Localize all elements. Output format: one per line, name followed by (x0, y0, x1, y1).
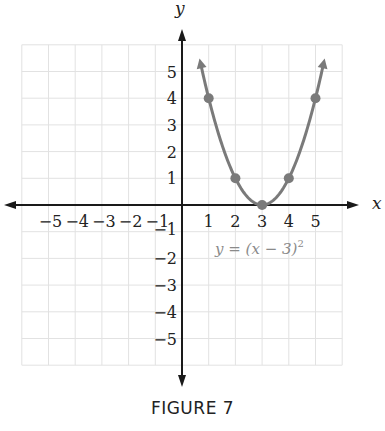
x-axis-right-arrow (347, 201, 359, 209)
equation-main: y = (x − 3) (214, 240, 298, 258)
y-tick-label: 5 (167, 63, 177, 82)
figure-caption: FIGURE 7 (0, 398, 385, 418)
x-tick-label: −3 (92, 212, 116, 231)
data-point (230, 173, 240, 183)
data-point (257, 200, 267, 210)
x-tick-label: 1 (204, 212, 214, 231)
y-axis-up-arrow (178, 29, 186, 41)
curve-arrow (318, 58, 328, 69)
x-tick-label: 4 (284, 212, 294, 231)
y-tick-label: −3 (153, 276, 177, 295)
curve-arrow (197, 58, 207, 69)
x-tick-label: 3 (257, 212, 267, 231)
data-point (204, 93, 214, 103)
y-axis-down-arrow (178, 375, 186, 387)
y-tick-label: 1 (167, 169, 177, 188)
data-point (284, 173, 294, 183)
chart-canvas: −5−4−3−2−112345−5−4−3−2−112345 x y y = (… (0, 0, 385, 431)
y-tick-label: −5 (153, 330, 177, 349)
y-tick-label: −2 (153, 249, 177, 268)
x-tick-label: −5 (39, 212, 63, 231)
y-axis-label: y (174, 0, 185, 18)
y-tick-label: 2 (167, 143, 177, 162)
data-point (311, 93, 321, 103)
axes (4, 29, 359, 387)
x-axis-left-arrow (4, 201, 16, 209)
equation-exponent: 2 (297, 238, 303, 249)
y-tick-label: −4 (153, 303, 177, 322)
x-tick-label: −4 (65, 212, 89, 231)
y-tick-label: 3 (167, 116, 177, 135)
x-tick-label: 2 (230, 212, 240, 231)
x-tick-label: 5 (310, 212, 320, 231)
equation-label: y = (x − 3)2 (214, 238, 304, 258)
y-tick-label: −1 (153, 220, 177, 239)
y-tick-label: 4 (167, 89, 177, 108)
x-tick-label: −2 (119, 212, 143, 231)
x-axis-label: x (372, 193, 382, 213)
